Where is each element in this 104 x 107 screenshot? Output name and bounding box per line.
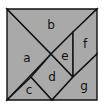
piece-label-g: g (80, 79, 88, 93)
piece-label-a: a (23, 51, 30, 65)
piece-label-d: d (48, 70, 56, 84)
piece-label-b: b (47, 18, 55, 32)
piece-label-c: c (26, 83, 33, 97)
tangram-diagram: abcdefg (0, 0, 104, 107)
piece-label-e: e (61, 49, 68, 63)
